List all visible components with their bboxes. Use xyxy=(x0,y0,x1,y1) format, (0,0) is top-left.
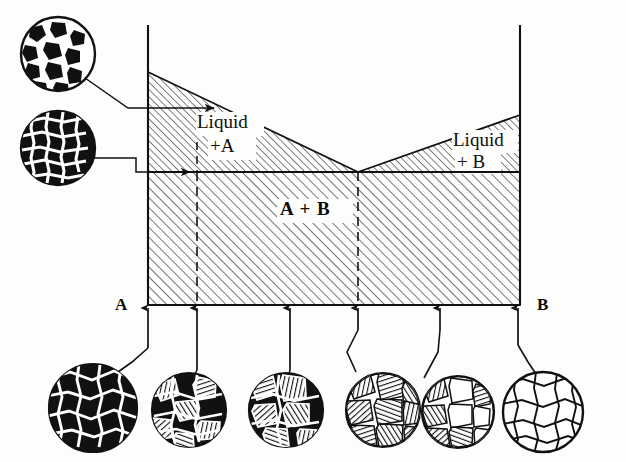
figure-canvas xyxy=(0,0,626,462)
phase-diagram-figure: Liquid +A Liquid + B A + B A B xyxy=(0,0,626,462)
micrograph-a-b-mixed xyxy=(249,373,323,449)
composition-arrows xyxy=(148,308,518,370)
region-label-liquid-plus-a-line1: Liquid xyxy=(197,112,248,132)
micrograph-eutectic xyxy=(345,373,422,448)
micrograph-a-rich xyxy=(150,373,226,451)
region-label-liquid-plus-b-line1: Liquid xyxy=(453,130,504,150)
region-label-liquid-plus-a-line2: +A xyxy=(210,136,234,156)
region-a-plus-b xyxy=(148,172,520,305)
micrograph-pure-b xyxy=(502,372,586,452)
micrograph-b-rich xyxy=(422,376,494,449)
axis-label-component-a: A xyxy=(115,296,127,314)
micrograph-leaders xyxy=(118,330,536,378)
axis-label-component-b: B xyxy=(537,296,548,314)
micrograph-upper-few-crystals xyxy=(21,17,95,96)
region-label-liquid-plus-b-line2: + B xyxy=(457,152,485,172)
micrograph-upper-mostly-solid xyxy=(19,109,97,187)
micrograph-pure-a xyxy=(47,364,138,452)
region-label-a-plus-b: A + B xyxy=(280,199,331,219)
